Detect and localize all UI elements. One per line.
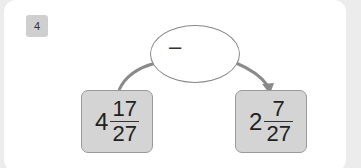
numerator: 17: [110, 97, 138, 121]
minus-operator: –: [169, 34, 181, 60]
start-value-box: 4 17 27: [81, 90, 153, 153]
result-value-box: 2 7 27: [235, 90, 307, 153]
fraction: 17 27: [110, 97, 138, 146]
mixed-number: 2 7 27: [236, 91, 306, 152]
mixed-number: 4 17 27: [82, 91, 152, 152]
fraction: 7 27: [264, 97, 292, 146]
denominator: 27: [110, 122, 138, 146]
right-arrow-line: [236, 63, 268, 86]
operation-oval: –: [150, 25, 240, 83]
numerator: 7: [271, 97, 287, 121]
whole-part: 4: [95, 108, 108, 136]
left-connector-line: [119, 63, 156, 90]
whole-part: 2: [249, 108, 262, 136]
denominator: 27: [264, 122, 292, 146]
